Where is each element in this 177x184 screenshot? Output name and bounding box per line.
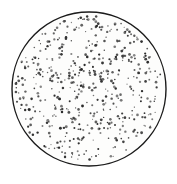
scatter-point [124, 116, 127, 119]
scatter-point [103, 127, 105, 129]
scatter-point [53, 95, 55, 97]
scatter-point [25, 57, 26, 58]
scatter-point [129, 42, 132, 45]
scatter-point [91, 104, 93, 106]
scatter-point [70, 65, 71, 66]
scatter-point [100, 122, 102, 124]
scatter-point [78, 128, 80, 130]
scatter-point [48, 132, 51, 135]
scatter-point [137, 72, 139, 74]
scatter-point [102, 57, 104, 59]
scatter-point [129, 85, 131, 87]
scatter-point [148, 79, 150, 81]
scatter-point [56, 27, 59, 30]
scatter-point [56, 147, 58, 149]
scatter-point [44, 146, 46, 148]
scatter-point [72, 81, 74, 83]
scatter-point [95, 34, 97, 36]
scatter-point [48, 41, 50, 43]
scatter-point [24, 90, 26, 92]
scatter-point [59, 127, 62, 130]
scatter-point [144, 112, 146, 114]
scatter-point [148, 56, 150, 58]
scatter-point [119, 133, 120, 134]
scatter-point [88, 132, 90, 134]
scatter-point [42, 76, 44, 78]
scatter-point [120, 50, 123, 53]
scatter-point [150, 71, 152, 73]
scatter-point [58, 146, 60, 148]
scatter-point [124, 55, 126, 57]
scatter-point [92, 18, 95, 21]
scatter-point [136, 114, 139, 117]
scatter-point [58, 57, 60, 59]
scatter-point [68, 77, 70, 79]
scatter-point [151, 118, 153, 120]
scatter-point [93, 57, 95, 59]
scatter-point [120, 138, 122, 140]
scatter-point [80, 82, 81, 83]
scatter-point [65, 125, 68, 128]
scatter-point [103, 117, 104, 118]
scatter-point [126, 84, 127, 85]
scatter-point [59, 23, 61, 25]
scatter-point [96, 41, 98, 43]
scatter-point [79, 16, 82, 19]
scatter-point [61, 108, 63, 110]
scatter-point [69, 140, 71, 142]
scatter-point [66, 32, 68, 34]
scatter-point [73, 62, 75, 64]
scatter-point [122, 125, 124, 127]
scatter-point [40, 86, 42, 88]
scatter-point [80, 90, 82, 92]
scatter-point [86, 56, 89, 59]
scatter-point [87, 124, 89, 126]
scatter-point [73, 138, 75, 140]
scatter-point [56, 141, 58, 143]
scatter-point [87, 18, 90, 21]
scatter-point [27, 66, 29, 68]
scatter-point [100, 79, 101, 80]
scatter-point [65, 36, 67, 38]
scatter-point [75, 107, 76, 108]
scatter-point [109, 118, 112, 121]
scatter-point [117, 73, 119, 75]
scatter-point [133, 76, 134, 77]
scatter-point [68, 69, 69, 70]
scatter-point [46, 45, 48, 47]
scatter-point [154, 98, 155, 99]
scatter-point [25, 118, 27, 120]
scatter-point [118, 98, 119, 99]
scatter-point [103, 40, 106, 43]
scatter-point [49, 136, 51, 138]
scatter-point [82, 85, 84, 87]
scatter-point [45, 48, 47, 50]
scatter-point [92, 50, 93, 51]
scatter-point [77, 85, 79, 87]
scatter-point [110, 60, 112, 62]
scatter-point [149, 100, 151, 102]
scatter-point [30, 98, 33, 101]
scatter-point [122, 60, 123, 61]
scatter-point [44, 33, 46, 35]
scatter-point [32, 62, 34, 64]
scatter-point [132, 130, 134, 132]
scatter-point [77, 108, 80, 111]
scatter-point [56, 74, 58, 76]
scatter-point [135, 135, 137, 137]
scatter-point [116, 95, 119, 98]
scatter-point [39, 74, 41, 76]
scatter-point [143, 56, 145, 58]
scatter-point [34, 47, 36, 49]
scatter-point [122, 117, 124, 119]
scatter-point [78, 27, 80, 29]
scatter-point [91, 127, 94, 130]
scatter-point [107, 122, 108, 123]
scatter-point [101, 26, 104, 29]
scatter-point [17, 75, 19, 77]
scatter-point [95, 87, 97, 89]
scatter-point [49, 77, 51, 79]
scatter-point [78, 18, 80, 20]
scatter-point [116, 39, 118, 41]
scatter-point [71, 156, 72, 157]
